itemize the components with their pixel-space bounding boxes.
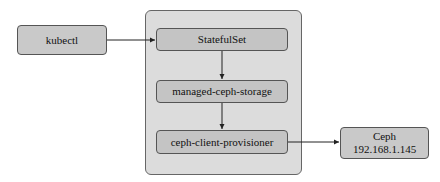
edges xyxy=(0,0,440,182)
